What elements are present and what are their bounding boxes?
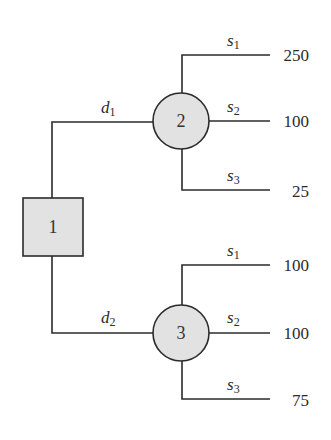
payoff-node3-s1: 100 [284,256,310,275]
branch-d1-line [52,122,153,198]
branch-node3-s3-line [182,361,270,399]
chance-node-3-label: 3 [177,323,186,343]
payoff-node2-s1: 250 [284,46,310,65]
state-label-node3-s3: s3 [227,375,240,396]
payoff-node3-s2: 100 [284,324,310,343]
decision-label-d2: d2 [101,308,116,329]
payoff-node3-s3: 75 [292,391,309,410]
chance-node-2-label: 2 [177,111,186,131]
branch-node3-s1-line [182,265,270,305]
branch-node2-s1-line [182,55,270,93]
payoff-node2-s2: 100 [284,112,310,131]
state-label-node2-s1: s1 [227,31,240,52]
decision-node-1-label: 1 [49,217,58,237]
payoff-node2-s3: 25 [292,182,309,201]
state-label-node3-s1: s1 [227,241,240,262]
state-label-node2-s3: s3 [227,166,240,187]
decision-tree-diagram: 1 2 3 d1 d2 s1 s2 s3 s1 s2 s3 250 100 25… [0,0,331,440]
branch-node2-s3-line [182,149,270,190]
state-label-node2-s2: s2 [227,97,240,118]
state-label-node3-s2: s2 [227,308,240,329]
decision-label-d1: d1 [101,98,116,119]
